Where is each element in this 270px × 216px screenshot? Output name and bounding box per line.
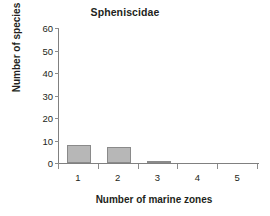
y-tick-mark: [55, 73, 59, 74]
x-tick-mark: [257, 164, 258, 169]
y-tick-mark: [55, 51, 59, 52]
y-axis-title: Number of species: [11, 0, 22, 114]
x-tick-label: 4: [195, 172, 200, 183]
y-tick-label: 30: [42, 90, 53, 101]
x-tick-label: 2: [115, 172, 120, 183]
chart-title: Spheniscidae: [0, 6, 250, 18]
x-tick-label: 1: [75, 172, 80, 183]
y-tick-mark: [55, 96, 59, 97]
x-tick-label: 3: [155, 172, 160, 183]
bar: [147, 161, 171, 163]
x-tick-mark: [177, 164, 178, 169]
y-tick-label: 60: [42, 23, 53, 34]
y-tick-label: 10: [42, 135, 53, 146]
y-tick-label: 50: [42, 45, 53, 56]
y-tick-mark: [55, 28, 59, 29]
x-tick-mark: [98, 164, 99, 169]
x-tick-mark: [217, 164, 218, 169]
x-tick-mark: [58, 164, 59, 169]
x-axis-ticks: 12345: [58, 164, 259, 188]
bar-chart: Spheniscidae Number of species 010203040…: [0, 0, 270, 216]
x-axis-title: Number of marine zones: [44, 194, 264, 205]
bar: [67, 145, 91, 163]
y-tick-label: 20: [42, 113, 53, 124]
y-tick-mark: [55, 118, 59, 119]
y-tick-label: 0: [48, 158, 53, 169]
x-tick-mark: [138, 164, 139, 169]
y-tick-label: 40: [42, 68, 53, 79]
y-tick-mark: [55, 141, 59, 142]
plot-area: 0102030405060: [59, 28, 258, 163]
bar: [107, 147, 131, 163]
x-tick-label: 5: [234, 172, 239, 183]
